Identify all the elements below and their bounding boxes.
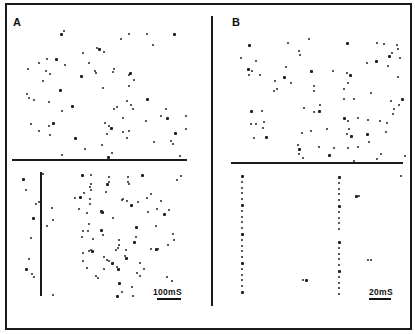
spike-dot [180, 175, 182, 177]
spike-dot [105, 191, 107, 193]
spike-dot [301, 132, 303, 134]
spike-dot [33, 276, 35, 278]
spike-dot [241, 175, 244, 178]
spike-dot [86, 267, 88, 269]
spike-dot [128, 74, 130, 76]
spike-dot [390, 100, 392, 102]
spike-dot [112, 71, 114, 73]
spike-dot [347, 82, 349, 84]
spike-dot [302, 157, 304, 159]
spike-dot [366, 62, 368, 64]
spike-dot [97, 277, 99, 279]
spike-dot [98, 48, 101, 51]
spike-dot [82, 252, 84, 254]
spike-dot [255, 123, 257, 125]
spike-dot [38, 62, 40, 64]
spike-dot [155, 225, 157, 227]
spike-dot [137, 201, 139, 203]
spike-dot [332, 70, 334, 72]
spike-dot [241, 256, 243, 258]
spike-dot [185, 115, 187, 117]
spike-dot [241, 221, 243, 223]
spike-dot [128, 130, 130, 132]
panel-b-label: B [232, 16, 240, 28]
spike-dot [253, 137, 255, 139]
spike-dot [130, 104, 132, 106]
spike-dot [173, 239, 175, 241]
spike-dot [38, 201, 40, 203]
spike-dot [42, 80, 44, 82]
spike-dot [103, 256, 105, 258]
spike-dot [396, 44, 398, 46]
spike-dot [305, 279, 308, 282]
spike-dot [302, 279, 304, 281]
spike-dot [299, 54, 301, 56]
panel-a-divider [12, 159, 187, 161]
spike-dot [338, 222, 340, 224]
spike-dot [241, 198, 243, 200]
spike-dot [126, 200, 128, 202]
spike-dot [113, 108, 115, 110]
panel-a-scale-bar: 100mS [153, 287, 182, 300]
spike-dot [82, 230, 84, 232]
spike-dot [350, 135, 353, 138]
spike-dot [179, 155, 181, 157]
spike-dot [328, 154, 331, 157]
spike-dot [380, 153, 382, 155]
spike-dot [110, 127, 113, 130]
spike-dot [38, 130, 40, 132]
spike-dot [95, 72, 97, 74]
spike-dot [150, 248, 152, 250]
spike-dot [82, 260, 84, 262]
spike-dot [22, 178, 25, 181]
spike-dot [370, 92, 372, 94]
spike-dot [80, 75, 83, 78]
spike-dot [146, 33, 148, 35]
spike-dot [79, 196, 82, 199]
spike-dot [83, 192, 85, 194]
spike-dot [25, 268, 28, 271]
spike-dot [145, 120, 147, 122]
spike-dot [338, 276, 340, 278]
spike-dot [120, 38, 122, 40]
spike-dot [87, 230, 89, 232]
spike-dot [100, 229, 103, 232]
spike-dot [338, 253, 340, 255]
spike-dot [122, 131, 124, 133]
spike-dot [338, 217, 340, 219]
spike-dot [118, 244, 120, 246]
spike-dot [74, 137, 77, 140]
spike-dot [133, 241, 136, 244]
spike-dot [126, 137, 128, 139]
spike-dot [160, 115, 162, 117]
spike-dot [88, 62, 90, 64]
spike-dot [248, 74, 250, 76]
spike-dot [400, 175, 402, 177]
spike-dot [52, 122, 55, 125]
spike-dot [139, 275, 141, 277]
spike-dot [46, 58, 48, 60]
spike-dot [146, 197, 148, 199]
spike-dot [126, 100, 128, 102]
spike-dot [94, 70, 96, 72]
spike-dot [102, 234, 104, 236]
spike-dot [401, 98, 404, 101]
spike-dot [26, 93, 28, 95]
spike-dot [30, 123, 32, 125]
spike-dot [392, 113, 394, 115]
spike-dot [241, 181, 243, 183]
panel-a-label: A [13, 16, 21, 28]
spike-dot [172, 143, 174, 145]
spike-dot [28, 258, 30, 260]
spike-dot [338, 282, 340, 284]
spike-dot [383, 43, 385, 45]
spike-dot [287, 42, 289, 44]
spike-dot [346, 42, 349, 45]
spike-dot [349, 74, 352, 77]
spike-dot [338, 258, 340, 260]
spike-dot [346, 72, 348, 74]
spike-dot [135, 236, 137, 238]
spike-dot [91, 250, 94, 253]
spike-dot [103, 51, 105, 53]
spike-dot [25, 189, 27, 191]
